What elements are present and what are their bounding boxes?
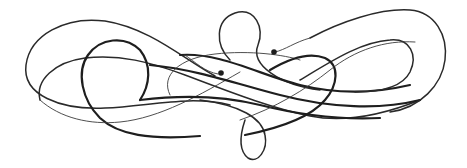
left-dot-terminal bbox=[218, 70, 224, 76]
right-dot-terminal bbox=[271, 49, 277, 55]
flourish-ornament bbox=[0, 0, 467, 168]
flourish-drawing bbox=[0, 0, 467, 168]
top-connector-stroke bbox=[275, 38, 310, 52]
right-inner-loop bbox=[300, 40, 413, 92]
left-inner-loop bbox=[39, 57, 420, 119]
center-top-loop bbox=[219, 12, 320, 90]
main-band-2 bbox=[140, 97, 380, 119]
bottom-center-loop bbox=[200, 100, 266, 159]
